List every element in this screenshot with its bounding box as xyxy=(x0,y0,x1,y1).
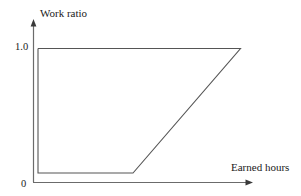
y-tick-label-0: 0 xyxy=(21,179,26,190)
y-axis-arrowhead xyxy=(31,19,37,27)
x-axis-title: Earned hours xyxy=(231,162,289,173)
work-ratio-envelope-line xyxy=(38,49,241,174)
y-tick-label-1.0: 1.0 xyxy=(15,42,28,53)
work-ratio-chart-figure: Work ratio Earned hours 1.0 0 xyxy=(0,0,301,196)
y-axis-title: Work ratio xyxy=(40,8,87,19)
x-axis-arrowhead xyxy=(246,180,254,186)
